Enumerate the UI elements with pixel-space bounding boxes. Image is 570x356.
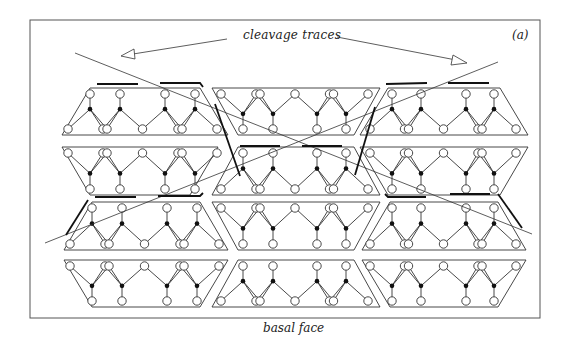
basal-face-label: basal face xyxy=(263,321,324,335)
cleavage-trace-line-2 xyxy=(45,62,498,243)
cleavage-traces-label: cleavage traces xyxy=(243,28,341,42)
panel-label: (a) xyxy=(512,28,529,42)
cleavage-trace-line-1 xyxy=(75,53,532,234)
arrow-left-icon xyxy=(121,39,227,59)
figure-frame xyxy=(30,20,540,318)
arrow-right-icon xyxy=(337,37,467,65)
cleavage-diagram xyxy=(0,0,570,356)
